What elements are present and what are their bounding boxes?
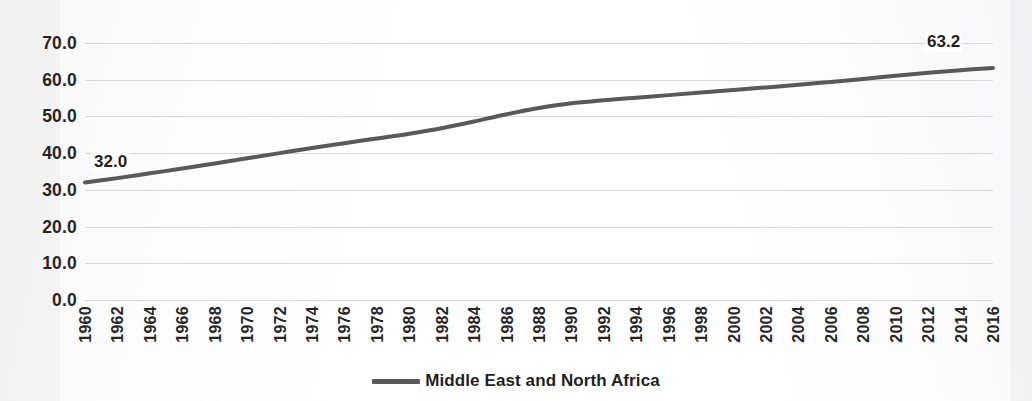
- x-tick-label: 1982: [434, 306, 452, 343]
- gridline-y: [85, 300, 993, 301]
- x-tick-label: 2002: [758, 306, 776, 343]
- y-axis: 0.010.020.030.040.050.060.070.0: [0, 43, 77, 300]
- scan-artifact: [1010, 0, 1032, 401]
- legend-entry-label: Middle East and North Africa: [425, 371, 660, 391]
- x-tick-label: 1978: [369, 306, 387, 343]
- data-label-last-point: 63.2: [925, 32, 962, 52]
- x-tick-label: 1970: [239, 306, 257, 343]
- x-tick-label: 1964: [142, 306, 160, 343]
- x-tick-label: 2006: [823, 306, 841, 343]
- x-tick-label: 1998: [693, 306, 711, 343]
- x-tick-label: 1962: [109, 306, 127, 343]
- y-tick-label: 40.0: [42, 143, 77, 164]
- x-tick-label: 1996: [661, 306, 679, 343]
- x-tick-label: 1972: [272, 306, 290, 343]
- y-tick-label: 0.0: [52, 290, 77, 311]
- x-tick-label: 2014: [953, 306, 971, 343]
- y-tick-label: 70.0: [42, 33, 77, 54]
- x-tick-label: 1994: [628, 306, 646, 343]
- x-tick-label: 2016: [985, 306, 1003, 343]
- chart-legend: Middle East and North Africa: [0, 371, 1032, 391]
- x-tick-label: 1966: [174, 306, 192, 343]
- x-tick-label: 1992: [596, 306, 614, 343]
- x-tick-label: 2008: [855, 306, 873, 343]
- legend-line-swatch: [372, 379, 420, 384]
- data-label-first-point: 32.0: [92, 152, 129, 172]
- y-tick-label: 60.0: [42, 69, 77, 90]
- x-tick-label: 1990: [563, 306, 581, 343]
- series-line-middle-east-and-north-africa: [85, 43, 993, 300]
- x-tick-label: 1968: [207, 306, 225, 343]
- y-tick-label: 10.0: [42, 253, 77, 274]
- x-tick-label: 1984: [466, 306, 484, 343]
- x-tick-label: 1988: [531, 306, 549, 343]
- x-tick-label: 2012: [920, 306, 938, 343]
- series-path: [85, 68, 993, 183]
- x-tick-label: 1960: [77, 306, 95, 343]
- x-tick-label: 2000: [726, 306, 744, 343]
- line-chart: 0.010.020.030.040.050.060.070.0 19601962…: [0, 0, 1032, 401]
- x-tick-label: 2004: [790, 306, 808, 343]
- y-tick-label: 50.0: [42, 106, 77, 127]
- x-tick-label: 1980: [401, 306, 419, 343]
- x-axis: 1960196219641966196819701972197419761978…: [85, 302, 993, 368]
- x-tick-label: 2010: [888, 306, 906, 343]
- plot-area: [85, 43, 993, 300]
- x-tick-label: 1986: [499, 306, 517, 343]
- x-tick-label: 1976: [336, 306, 354, 343]
- y-tick-label: 20.0: [42, 216, 77, 237]
- y-tick-label: 30.0: [42, 179, 77, 200]
- x-tick-label: 1974: [304, 306, 322, 343]
